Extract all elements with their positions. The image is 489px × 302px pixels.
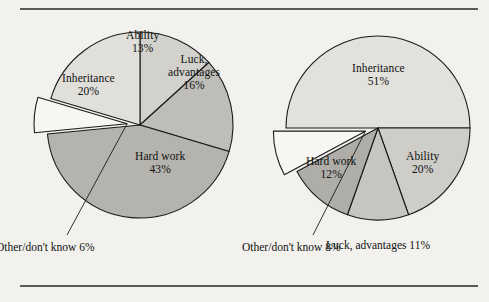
right-pie-callout-luck-value: 11% (409, 239, 430, 251)
right-pie-callout-luck-line2: advantages (355, 239, 406, 251)
left-pie-group (34, 32, 233, 235)
right-pie-callout-other-line1: Other/don't (242, 241, 294, 253)
right-pie-callout-other-dont-know: Other/don't know 8% (242, 241, 341, 254)
right-pie-group (273, 36, 470, 235)
left-pie-callout-other-line1: Other/don't (0, 241, 48, 253)
left-pie-callout-other-line2: know (51, 241, 77, 253)
left-pie-callout-other-value: 6% (79, 241, 94, 253)
pie-charts-canvas (0, 0, 489, 302)
right-pie-callout-other-value: 8% (325, 241, 340, 253)
right-pie-slice-inheritance[interactable] (286, 36, 470, 128)
right-pie-callout-other-line2: know (297, 241, 323, 253)
right-pie-callout-luck-advantages: Luck, advantages 11% (326, 239, 430, 252)
figure-container: Ability 13% Luck, advantages 16% Hard wo… (0, 0, 489, 302)
left-pie-callout-other-dont-know: Other/don't know 6% (0, 241, 95, 254)
